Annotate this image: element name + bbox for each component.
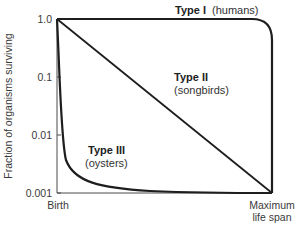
y-tick-label-0.001: 0.001	[26, 187, 52, 199]
y-axis-title: Fraction of organisms surviving	[2, 33, 14, 178]
x-label-max-line2: life span	[252, 211, 291, 223]
label-type-3-sub: (oysters)	[85, 157, 128, 169]
y-tick-label-0.01: 0.01	[32, 129, 53, 141]
label-type-2: Type II	[174, 71, 208, 83]
label-type-3: Type III	[88, 144, 125, 156]
label-type-1: Type I	[175, 4, 206, 16]
y-tick-label-1: 1.0	[37, 13, 52, 25]
label-type-1-sub: (humans)	[212, 4, 258, 16]
x-label-max-line1: Maximum	[249, 199, 295, 211]
survivorship-chart: 1.0 0.1 0.01 0.001 Fraction of organisms…	[0, 0, 296, 232]
label-type-2-sub: (songbirds)	[174, 84, 229, 96]
x-label-birth: Birth	[47, 199, 69, 211]
y-tick-label-0.1: 0.1	[37, 71, 52, 83]
